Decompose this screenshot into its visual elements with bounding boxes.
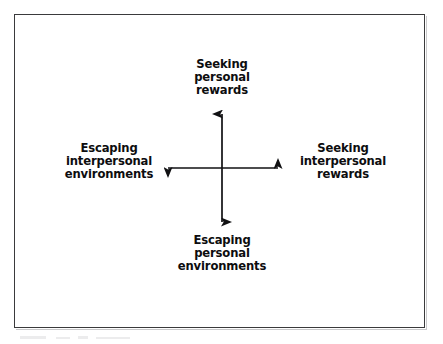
label-seeking-interpersonal-rewards: Seeking interpersonal rewards bbox=[300, 142, 386, 182]
label-line: environments bbox=[65, 168, 153, 181]
label-escaping-interpersonal-environments: Escaping interpersonal environments bbox=[65, 142, 153, 182]
scan-artifact bbox=[56, 337, 70, 339]
scan-artifact bbox=[20, 336, 46, 339]
label-line: rewards bbox=[300, 168, 386, 181]
label-escaping-personal-environments: Escaping personal environments bbox=[178, 234, 266, 274]
label-seeking-personal-rewards: Seeking personal rewards bbox=[194, 58, 250, 98]
label-line: environments bbox=[178, 260, 266, 273]
scan-artifact bbox=[96, 337, 130, 339]
label-line: rewards bbox=[194, 84, 250, 97]
scan-artifact bbox=[78, 336, 88, 339]
figure-root: Seeking personal rewards Escaping interp… bbox=[0, 0, 443, 344]
